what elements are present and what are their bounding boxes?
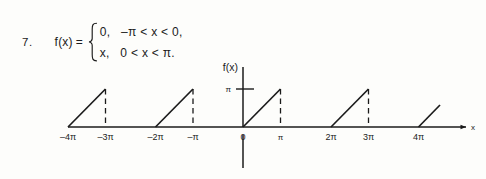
ramp-segment <box>156 89 194 127</box>
x-tick-label: –3π <box>97 132 113 142</box>
ramp-segment <box>68 89 106 127</box>
x-tick-label: 4π <box>413 132 424 142</box>
x-tick-label: –π <box>187 132 198 142</box>
sawtooth-graph: π f(x) x –4π –3π –2π –π 0 π 2π 3π 4π <box>0 0 486 179</box>
x-axis-arrow-icon <box>461 125 467 129</box>
ramp-segment <box>243 89 281 127</box>
x-tick-label: 2π <box>325 132 336 142</box>
y-axis-label: f(x) <box>223 61 238 73</box>
x-tick-label: 3π <box>363 132 374 142</box>
ramp-segment-partial <box>419 105 441 127</box>
y-tick-label-pi: π <box>225 85 231 94</box>
x-axis-label: x <box>471 123 475 132</box>
x-tick-label: –2π <box>147 132 163 142</box>
x-tick-label-origin: 0 <box>240 132 245 142</box>
x-tick-label: –4π <box>60 132 76 142</box>
ramp-segment <box>331 89 369 127</box>
x-tick-label: π <box>278 133 284 142</box>
